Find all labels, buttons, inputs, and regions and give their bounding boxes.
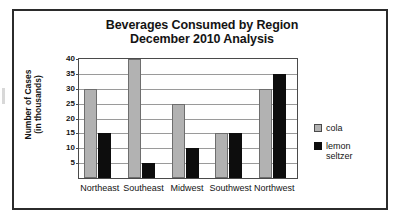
bar-southeast-cola xyxy=(128,59,141,178)
y-axis-tick-mark xyxy=(76,163,79,164)
y-axis-tick-label: 40 xyxy=(66,55,75,63)
y-axis-title-line-2: (in thousands) xyxy=(33,55,43,155)
bar-midwest-lemon-seltzer xyxy=(186,148,199,178)
bar-midwest-cola xyxy=(172,104,185,178)
y-axis-tick-mark xyxy=(76,74,79,75)
bar-southwest-cola xyxy=(215,133,228,178)
gridline xyxy=(79,74,297,75)
bar-southwest-lemon-seltzer xyxy=(229,133,242,178)
y-axis-tick-mark xyxy=(76,89,79,90)
y-axis-tick-label: 20 xyxy=(66,115,75,123)
y-axis-tick-mark xyxy=(76,133,79,134)
legend-item-cola: cola xyxy=(314,123,384,134)
bar-southeast-lemon-seltzer xyxy=(142,163,155,178)
chart-plot-container: Number of Cases (in thousands) 510152025… xyxy=(14,11,390,208)
x-axis-label-northwest: Northwest xyxy=(244,183,304,193)
legend-label-lemon-seltzer: lemon seltzer xyxy=(326,141,353,162)
y-axis-tick-mark xyxy=(76,59,79,60)
chart-page: Beverages Consumed by Region December 20… xyxy=(0,0,399,224)
legend-label-lemon-seltzer-line-1: lemon xyxy=(326,141,351,151)
plot-area: 510152025303540 xyxy=(78,58,298,179)
scan-edge-artifact xyxy=(2,88,5,104)
legend-label-lemon-seltzer-line-2: seltzer xyxy=(326,151,353,161)
y-axis-tick-mark xyxy=(76,148,79,149)
y-axis-tick-mark xyxy=(76,119,79,120)
chart-frame: Beverages Consumed by Region December 20… xyxy=(12,9,388,210)
y-axis-tick-label: 5 xyxy=(71,159,75,167)
bar-northeast-cola xyxy=(84,89,97,178)
y-axis-tick-label: 30 xyxy=(66,85,75,93)
y-axis-tick-label: 15 xyxy=(66,129,75,137)
chart-legend: cola lemon seltzer xyxy=(314,123,384,169)
y-axis-tick-label: 25 xyxy=(66,100,75,108)
bar-northwest-cola xyxy=(259,89,272,178)
bar-northwest-lemon-seltzer xyxy=(273,74,286,178)
y-axis-tick-label: 10 xyxy=(66,144,75,152)
y-axis-title: Number of Cases (in thousands) xyxy=(24,55,43,155)
y-axis-tick-label: 35 xyxy=(66,70,75,78)
y-axis-tick-mark xyxy=(76,104,79,105)
legend-item-lemon-seltzer: lemon seltzer xyxy=(314,141,384,162)
legend-swatch-cola-icon xyxy=(314,124,322,132)
legend-swatch-lemon-seltzer-icon xyxy=(314,142,322,150)
legend-label-cola: cola xyxy=(326,123,343,134)
bar-northeast-lemon-seltzer xyxy=(98,133,111,178)
